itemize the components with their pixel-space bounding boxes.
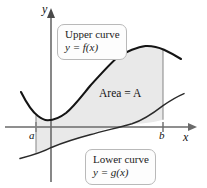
x-axis-label: x [183,130,188,145]
y-axis-arrowhead [47,8,55,18]
callout-upper-curve: Upper curve y = f(x) [57,24,127,60]
tick-label-a: a [29,129,35,141]
callout-upper-equation: y = f(x) [65,41,120,54]
area-label: Area = A [99,87,141,99]
figure-area-between-curves: y x a b Area = A Upper curve y = f(x) Lo… [0,0,207,188]
callout-lower-title: Lower curve [93,153,149,166]
callout-lower-equation: y = g(x) [93,166,149,179]
callout-lower-curve: Lower curve y = g(x) [85,149,156,185]
tick-label-b: b [159,129,165,141]
x-axis-arrowhead [188,123,197,131]
callout-upper-title: Upper curve [65,28,120,41]
y-axis-label: y [42,2,47,17]
shaded-area-region [36,46,163,153]
